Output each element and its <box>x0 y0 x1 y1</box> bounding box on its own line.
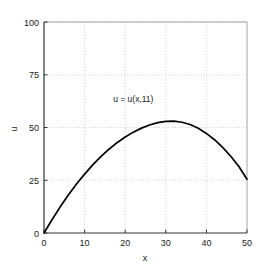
chart-canvas: 100 75 50 25 0 0 10 20 30 40 50 x u u = … <box>0 0 264 269</box>
curve-annotation-label: u = u(x,11) <box>113 94 153 104</box>
y-tick-label-25: 25 <box>29 176 39 186</box>
x-tick-label-10: 10 <box>80 238 90 248</box>
y-axis-title: u <box>9 126 19 131</box>
x-tick-label-50: 50 <box>242 238 252 248</box>
x-tick-label-0: 0 <box>41 238 46 248</box>
chart-background <box>0 0 264 269</box>
y-tick-label-50: 50 <box>29 123 39 133</box>
y-tick-label-75: 75 <box>29 70 39 80</box>
y-tick-label-100: 100 <box>24 18 39 28</box>
x-tick-label-20: 20 <box>120 238 130 248</box>
x-tick-label-30: 30 <box>161 238 171 248</box>
x-axis-title: x <box>143 253 148 263</box>
y-tick-label-0: 0 <box>34 229 39 239</box>
x-tick-label-40: 40 <box>201 238 211 248</box>
figure-panel: 100 75 50 25 0 0 10 20 30 40 50 x u u = … <box>0 0 264 269</box>
